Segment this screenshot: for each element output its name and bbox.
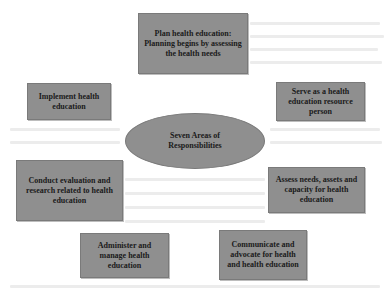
node-serve-label: Serve as a health education resource per… <box>281 87 360 117</box>
node-assess-label: Assess needs, assets and capacity for he… <box>273 175 360 205</box>
node-communicate: Communicate and advocate for health and … <box>219 230 307 280</box>
node-serve: Serve as a health education resource per… <box>276 82 365 121</box>
node-conduct-label: Conduct evaluation and research related … <box>21 176 118 206</box>
node-plan: Plan health education: Planning begins b… <box>138 13 248 74</box>
node-administer: Administer and manage health education <box>80 233 169 278</box>
node-administer-label: Administer and manage health education <box>95 241 155 271</box>
node-plan-label: Plan health education: Planning begins b… <box>143 29 243 59</box>
node-assess: Assess needs, assets and capacity for he… <box>268 167 365 213</box>
node-conduct: Conduct evaluation and research related … <box>16 160 123 221</box>
node-implement: Implement health education <box>27 83 111 120</box>
center-ellipse: Seven Areas of Responsibilities <box>125 113 265 169</box>
node-communicate-label: Communicate and advocate for health and … <box>224 240 302 270</box>
center-label: Seven Areas of Responsibilities <box>155 131 235 151</box>
node-implement-label: Implement health education <box>32 92 106 112</box>
